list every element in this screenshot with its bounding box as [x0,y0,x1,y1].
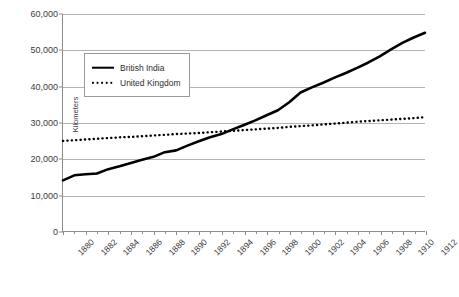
legend-label-british-india: British India [120,63,164,73]
legend-label-united-kingdom: United Kingdom [120,78,180,88]
y-tick-label: 30,000 [30,118,58,128]
x-tick-label: 1910 [416,237,436,257]
x-tick-label: 1890 [189,237,209,257]
x-tick-mark [279,231,280,234]
x-tick-mark [403,231,404,235]
y-tick-label: 0 [53,227,58,237]
figure-caption [22,288,322,297]
x-tick-mark [222,231,223,235]
series-line-united-kingdom [63,117,425,141]
y-tick-label: 60,000 [30,9,58,19]
plot-area: 010,00020,00030,00040,00050,00060,000 Ki… [62,14,425,232]
y-tick-label: 20,000 [30,154,58,164]
x-tick-mark [63,231,64,235]
legend-line-dotted-icon [92,78,114,88]
x-tick-mark [256,231,257,234]
x-tick-label: 1894 [234,237,254,257]
y-tick-label: 40,000 [30,82,58,92]
x-tick-mark [369,231,370,234]
x-tick-mark [245,231,246,235]
x-tick-label: 1892 [212,237,232,257]
x-tick-mark [347,231,348,234]
x-tick-mark [290,231,291,235]
legend-line-solid-icon [92,63,114,73]
x-tick-mark [142,231,143,234]
x-tick-mark [131,231,132,235]
legend: British India United Kingdom [84,53,190,97]
x-tick-mark [86,231,87,235]
x-tick-mark [188,231,189,234]
x-tick-label: 1898 [280,237,300,257]
x-tick-mark [97,231,98,234]
x-tick-label: 1912 [439,237,459,257]
x-tick-mark [313,231,314,235]
x-tick-mark [233,231,234,234]
x-tick-mark [267,231,268,235]
x-tick-mark [426,231,427,235]
x-tick-mark [165,231,166,234]
x-tick-label: 1902 [325,237,345,257]
x-tick-mark [415,231,416,234]
x-tick-mark [74,231,75,234]
x-tick-mark [301,231,302,234]
x-tick-mark [199,231,200,235]
x-tick-mark [335,231,336,235]
legend-item-british-india: British India [92,60,182,75]
x-tick-mark [358,231,359,235]
x-tick-mark [210,231,211,234]
legend-item-united-kingdom: United Kingdom [92,75,182,90]
y-tick-label: 10,000 [30,191,58,201]
x-tick-label: 1900 [302,237,322,257]
x-tick-label: 1906 [370,237,390,257]
x-tick-mark [120,231,121,234]
x-tick-label: 1886 [144,237,164,257]
x-tick-mark [108,231,109,235]
x-tick-label: 1880 [76,237,96,257]
x-tick-label: 1896 [257,237,277,257]
x-tick-label: 1904 [348,237,368,257]
x-tick-label: 1908 [393,237,413,257]
x-tick-mark [381,231,382,235]
x-tick-mark [392,231,393,234]
x-tick-mark [324,231,325,234]
x-tick-mark [154,231,155,235]
series-layer [63,14,425,231]
y-tick-label: 50,000 [30,45,58,55]
x-tick-label: 1882 [98,237,118,257]
x-tick-mark [176,231,177,235]
x-tick-label: 1884 [121,237,141,257]
x-tick-label: 1888 [166,237,186,257]
